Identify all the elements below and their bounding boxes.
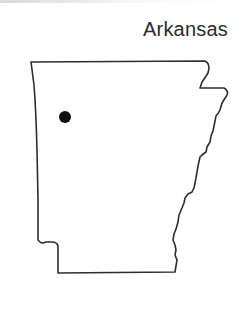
state-map: [0, 0, 246, 311]
location-marker-dot: [59, 111, 71, 123]
arkansas-outline: [31, 61, 228, 273]
